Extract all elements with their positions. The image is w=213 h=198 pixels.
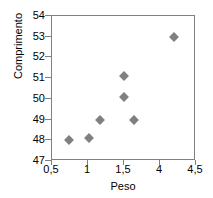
x-axis-tick-label: 4,5: [180, 163, 210, 175]
x-axis-tick-label: 0,5: [36, 163, 66, 175]
y-axis-tick-mark: [45, 77, 51, 78]
y-axis-tick-mark: [45, 15, 51, 16]
scatter-chart: 4748495051525354 Comprimento 0,511,544,5…: [0, 0, 213, 198]
x-axis-tick-label: 4: [144, 163, 174, 175]
y-axis-tick-mark: [45, 119, 51, 120]
x-axis-title: Peso: [51, 180, 195, 192]
x-axis-tick-label: 1: [72, 163, 102, 175]
y-axis-tick-mark: [45, 98, 51, 99]
x-axis-tick-label: 1,5: [108, 163, 138, 175]
y-axis-tick-mark: [45, 139, 51, 140]
y-axis-tick-mark: [45, 36, 51, 37]
y-axis-tick-mark: [45, 56, 51, 57]
y-axis-title: Comprimento: [12, 0, 24, 106]
